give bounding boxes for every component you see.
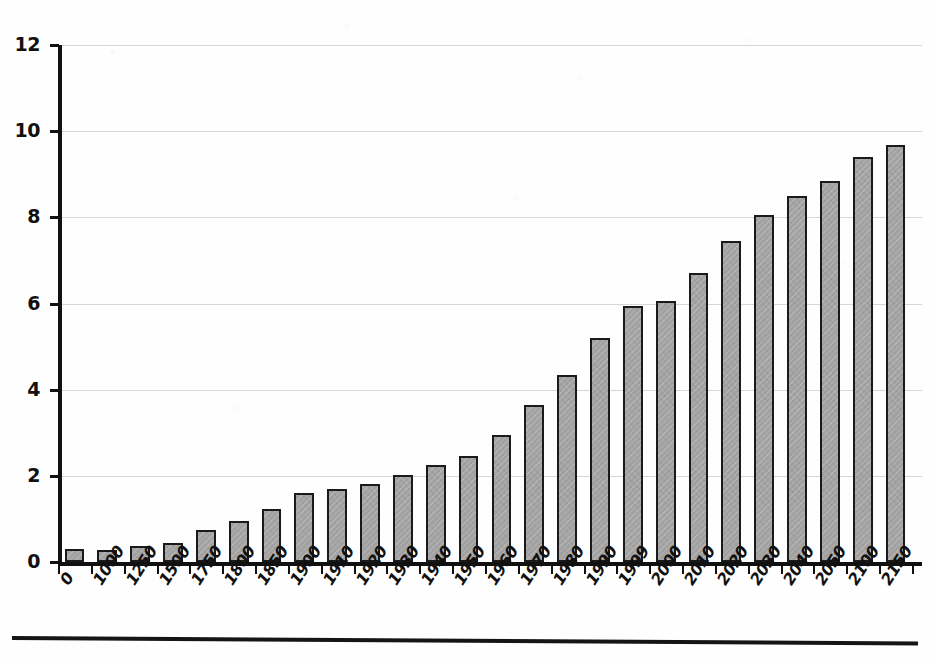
- bar: [754, 215, 774, 562]
- bar: [623, 306, 643, 562]
- y-axis-tick-mark: [50, 216, 59, 219]
- bar: [590, 338, 610, 562]
- y-axis-tick-mark: [50, 389, 59, 392]
- bar: [886, 145, 906, 562]
- x-axis-tick-label: 0: [56, 569, 78, 588]
- y-axis-tick-label: 12: [6, 33, 40, 55]
- y-axis-tick-mark: [50, 130, 59, 133]
- bar: [557, 375, 577, 562]
- y-axis-tick-mark: [50, 475, 59, 478]
- y-axis-tick-mark: [50, 303, 59, 306]
- bar: [524, 405, 544, 562]
- bar-chart: 024681012 010001250150017501800185019001…: [0, 0, 937, 658]
- y-axis-tick-mark: [50, 561, 59, 564]
- bar: [65, 549, 85, 562]
- y-axis-tick-mark: [50, 44, 59, 47]
- y-axis-tick-label: 8: [6, 205, 40, 227]
- gridline: [58, 45, 922, 46]
- y-axis-tick-label: 2: [6, 464, 40, 486]
- y-axis-tick-label: 4: [6, 378, 40, 400]
- x-axis-tick-mark: [912, 565, 914, 574]
- y-axis-line: [58, 45, 62, 566]
- bar: [853, 157, 873, 562]
- bar: [787, 196, 807, 562]
- bar: [820, 181, 840, 562]
- gridline: [58, 131, 922, 132]
- bar: [656, 301, 676, 562]
- bar: [689, 273, 709, 562]
- y-axis-tick-label: 0: [6, 550, 40, 572]
- y-axis-tick-label: 6: [6, 292, 40, 314]
- y-axis-tick-label: 10: [6, 119, 40, 141]
- bar: [721, 241, 741, 562]
